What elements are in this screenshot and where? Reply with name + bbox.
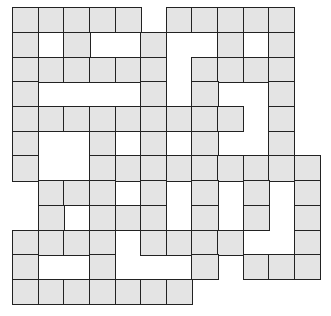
grid-cell-r3-c10[interactable] bbox=[268, 81, 295, 107]
grid-cell-r11-c3[interactable] bbox=[89, 279, 116, 305]
grid-cell-r8-c1[interactable] bbox=[38, 205, 65, 231]
grid-cell-r9-c2[interactable] bbox=[63, 230, 90, 256]
grid-cell-r2-c1[interactable] bbox=[38, 57, 65, 83]
grid-cell-r10-c9[interactable] bbox=[243, 254, 270, 280]
grid-cell-r6-c10[interactable] bbox=[268, 155, 295, 181]
grid-cell-r9-c1[interactable] bbox=[38, 230, 65, 256]
grid-cell-r11-c4[interactable] bbox=[115, 279, 142, 305]
grid-cell-r0-c0[interactable] bbox=[12, 7, 39, 33]
grid-cell-r4-c10[interactable] bbox=[268, 106, 295, 132]
grid-cell-r4-c8[interactable] bbox=[217, 106, 244, 132]
grid-cell-r0-c7[interactable] bbox=[191, 7, 218, 33]
grid-cell-r9-c11[interactable] bbox=[294, 230, 321, 256]
grid-cell-r6-c9[interactable] bbox=[243, 155, 270, 181]
grid-cell-r4-c6[interactable] bbox=[166, 106, 193, 132]
grid-cell-r4-c5[interactable] bbox=[140, 106, 167, 132]
grid-cell-r3-c5[interactable] bbox=[140, 81, 167, 107]
grid-cell-r8-c11[interactable] bbox=[294, 205, 321, 231]
grid-cell-r2-c8[interactable] bbox=[217, 57, 244, 83]
grid-cell-r5-c10[interactable] bbox=[268, 131, 295, 157]
grid-cell-r6-c11[interactable] bbox=[294, 155, 321, 181]
grid-cell-r9-c6[interactable] bbox=[166, 230, 193, 256]
grid-cell-r4-c3[interactable] bbox=[89, 106, 116, 132]
grid-cell-r7-c9[interactable] bbox=[243, 180, 270, 206]
grid-cell-r9-c0[interactable] bbox=[12, 230, 39, 256]
grid-cell-r11-c2[interactable] bbox=[63, 279, 90, 305]
grid-cell-r2-c7[interactable] bbox=[191, 57, 218, 83]
grid-cell-r7-c1[interactable] bbox=[38, 180, 65, 206]
grid-cell-r10-c0[interactable] bbox=[12, 254, 39, 280]
grid-cell-r8-c9[interactable] bbox=[243, 205, 270, 231]
grid-cell-r1-c8[interactable] bbox=[217, 32, 244, 58]
grid-cell-r9-c5[interactable] bbox=[140, 230, 167, 256]
grid-cell-r6-c8[interactable] bbox=[217, 155, 244, 181]
grid-cell-r5-c0[interactable] bbox=[12, 131, 39, 157]
grid-cell-r0-c9[interactable] bbox=[243, 7, 270, 33]
grid-cell-r10-c11[interactable] bbox=[294, 254, 321, 280]
grid-cell-r0-c4[interactable] bbox=[115, 7, 142, 33]
grid-cell-r10-c7[interactable] bbox=[191, 254, 218, 280]
puzzle-grid bbox=[13, 8, 320, 304]
grid-cell-r7-c7[interactable] bbox=[191, 180, 218, 206]
grid-cell-r5-c5[interactable] bbox=[140, 131, 167, 157]
grid-cell-r2-c3[interactable] bbox=[89, 57, 116, 83]
grid-cell-r7-c11[interactable] bbox=[294, 180, 321, 206]
grid-cell-r11-c5[interactable] bbox=[140, 279, 167, 305]
grid-cell-r0-c8[interactable] bbox=[217, 7, 244, 33]
grid-cell-r4-c2[interactable] bbox=[63, 106, 90, 132]
grid-cell-r11-c0[interactable] bbox=[12, 279, 39, 305]
grid-cell-r3-c0[interactable] bbox=[12, 81, 39, 107]
grid-cell-r0-c1[interactable] bbox=[38, 7, 65, 33]
grid-cell-r7-c3[interactable] bbox=[89, 180, 116, 206]
grid-cell-r2-c10[interactable] bbox=[268, 57, 295, 83]
grid-cell-r2-c0[interactable] bbox=[12, 57, 39, 83]
grid-cell-r6-c6[interactable] bbox=[166, 155, 193, 181]
grid-cell-r8-c5[interactable] bbox=[140, 205, 167, 231]
grid-cell-r6-c7[interactable] bbox=[191, 155, 218, 181]
grid-cell-r1-c10[interactable] bbox=[268, 32, 295, 58]
grid-cell-r6-c3[interactable] bbox=[89, 155, 116, 181]
grid-cell-r10-c3[interactable] bbox=[89, 254, 116, 280]
grid-cell-r8-c4[interactable] bbox=[115, 205, 142, 231]
grid-cell-r9-c3[interactable] bbox=[89, 230, 116, 256]
grid-cell-r11-c6[interactable] bbox=[166, 279, 193, 305]
grid-cell-r0-c2[interactable] bbox=[63, 7, 90, 33]
grid-cell-r6-c5[interactable] bbox=[140, 155, 167, 181]
grid-cell-r4-c0[interactable] bbox=[12, 106, 39, 132]
grid-cell-r6-c4[interactable] bbox=[115, 155, 142, 181]
grid-cell-r5-c3[interactable] bbox=[89, 131, 116, 157]
grid-cell-r1-c0[interactable] bbox=[12, 32, 39, 58]
grid-cell-r8-c7[interactable] bbox=[191, 205, 218, 231]
grid-cell-r3-c7[interactable] bbox=[191, 81, 218, 107]
grid-cell-r6-c0[interactable] bbox=[12, 155, 39, 181]
grid-cell-r0-c6[interactable] bbox=[166, 7, 193, 33]
grid-cell-r4-c1[interactable] bbox=[38, 106, 65, 132]
grid-cell-r4-c7[interactable] bbox=[191, 106, 218, 132]
grid-cell-r2-c4[interactable] bbox=[115, 57, 142, 83]
grid-cell-r7-c5[interactable] bbox=[140, 180, 167, 206]
grid-cell-r5-c7[interactable] bbox=[191, 131, 218, 157]
grid-cell-r1-c5[interactable] bbox=[140, 32, 167, 58]
grid-cell-r9-c7[interactable] bbox=[191, 230, 218, 256]
grid-cell-r9-c8[interactable] bbox=[217, 230, 244, 256]
grid-cell-r1-c2[interactable] bbox=[63, 32, 90, 58]
grid-cell-r2-c9[interactable] bbox=[243, 57, 270, 83]
grid-cell-r2-c5[interactable] bbox=[140, 57, 167, 83]
grid-cell-r10-c10[interactable] bbox=[268, 254, 295, 280]
grid-cell-r4-c4[interactable] bbox=[115, 106, 142, 132]
grid-cell-r0-c3[interactable] bbox=[89, 7, 116, 33]
grid-cell-r8-c3[interactable] bbox=[89, 205, 116, 231]
grid-cell-r0-c10[interactable] bbox=[268, 7, 295, 33]
grid-cell-r2-c2[interactable] bbox=[63, 57, 90, 83]
grid-cell-r7-c2[interactable] bbox=[63, 180, 90, 206]
grid-cell-r11-c1[interactable] bbox=[38, 279, 65, 305]
